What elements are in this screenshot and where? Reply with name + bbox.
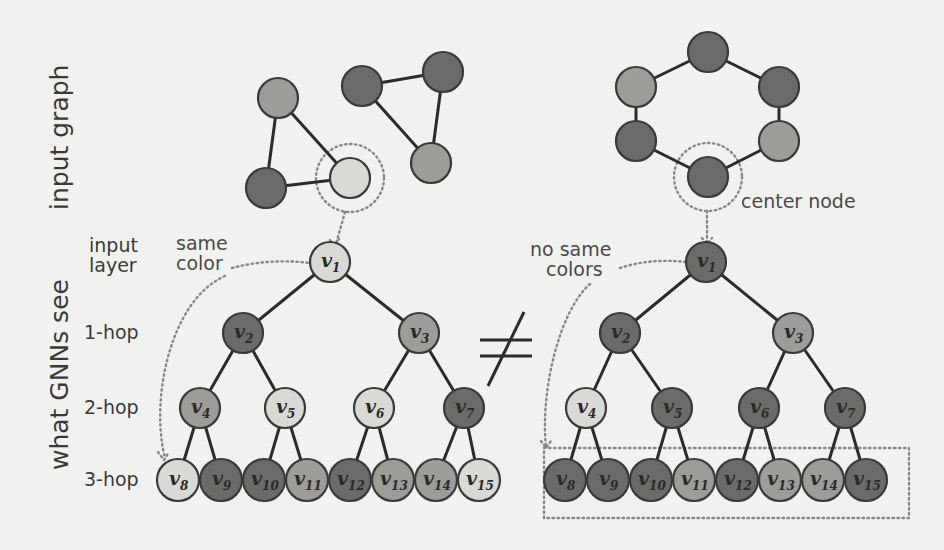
graph-node [423, 52, 463, 92]
tree-node-v3: v3 [773, 313, 813, 353]
tree-node-v5: v5 [652, 388, 692, 428]
center-node [330, 158, 370, 198]
same-color-label-line2: color [176, 252, 223, 274]
graph-node [616, 67, 656, 107]
tree-node-v7: v7 [444, 388, 484, 428]
left-computation-tree: v1v2v3v4v5v6v7v8v9v10v11v12v13v14v15 [157, 242, 500, 501]
same-color-label-line1: same [176, 232, 228, 254]
center-node-label: center node [741, 190, 856, 212]
tree-node-v13: v13 [759, 459, 801, 501]
graph-node [258, 78, 298, 118]
right-input-graph [616, 32, 799, 197]
tree-node-v11: v11 [673, 459, 715, 501]
tree-node-v1: v1 [310, 242, 350, 282]
tree-node-v13: v13 [372, 459, 414, 501]
tree-node-v15: v15 [458, 459, 500, 501]
tree-node-v2: v2 [223, 313, 263, 353]
graph-node [616, 121, 656, 161]
tree-node-v2: v2 [600, 313, 640, 353]
input-graph-label: input graph [45, 65, 74, 210]
no-same-colors-label-line1: no same [530, 238, 611, 260]
hop1-label: 1-hop [84, 321, 139, 343]
tree-node-v14: v14 [415, 459, 457, 501]
input-layer-label-line2: layer [89, 254, 137, 276]
tree-node-v4: v4 [180, 388, 220, 428]
tree-node-v10: v10 [630, 459, 672, 501]
tree-node-v6: v6 [354, 388, 394, 428]
hop2-label: 2-hop [84, 396, 139, 418]
tree-node-v9: v9 [200, 459, 242, 501]
graph-node [246, 168, 286, 208]
no-same-colors-label-line2: colors [546, 258, 603, 280]
what-gnns-see-label: what GNNs see [45, 279, 74, 470]
left-input-graph [246, 52, 463, 208]
tree-node-v8: v8 [157, 459, 199, 501]
graph-node [342, 66, 382, 106]
input-layer-label-line1: input [89, 234, 138, 256]
graph-node [759, 67, 799, 107]
tree-node-v3: v3 [399, 313, 439, 353]
tree-node-v12: v12 [329, 459, 371, 501]
tree-node-v15: v15 [845, 459, 887, 501]
graph-node [759, 121, 799, 161]
tree-node-v7: v7 [825, 388, 865, 428]
tree-node-v10: v10 [243, 459, 285, 501]
not-equal-icon [480, 312, 532, 386]
tree-node-v11: v11 [286, 459, 328, 501]
right-computation-tree: v1v2v3v4v5v6v7v8v9v10v11v12v13v14v15 [544, 242, 887, 501]
tree-node-v4: v4 [566, 388, 606, 428]
graph-node [688, 32, 728, 72]
tree-node-v12: v12 [716, 459, 758, 501]
tree-node-v14: v14 [802, 459, 844, 501]
center-node [688, 157, 728, 197]
tree-node-v5: v5 [265, 388, 305, 428]
tree-node-v1: v1 [686, 242, 726, 282]
tree-node-v8: v8 [544, 459, 586, 501]
tree-node-v9: v9 [587, 459, 629, 501]
graph-node [411, 143, 451, 183]
tree-node-v6: v6 [739, 388, 779, 428]
hop3-label: 3-hop [84, 468, 139, 490]
gnn-diagram: input graph what GNNs see input layer 1-… [0, 0, 944, 550]
